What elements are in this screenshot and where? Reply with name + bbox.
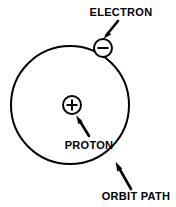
orbit-path-leader-arrow	[116, 162, 131, 189]
atom-structure-diagram: ELECTRON PROTON ORBIT PATH	[0, 0, 176, 207]
electron-label: ELECTRON	[90, 6, 153, 18]
proton-leader-arrow	[76, 115, 89, 136]
orbit-path-label: ORBIT PATH	[102, 190, 171, 202]
electron-leader-arrow	[103, 21, 118, 39]
electron-particle	[94, 39, 112, 57]
diagram-canvas: ELECTRON PROTON ORBIT PATH	[0, 0, 176, 207]
proton-particle	[63, 96, 81, 114]
proton-label: PROTON	[65, 139, 114, 151]
